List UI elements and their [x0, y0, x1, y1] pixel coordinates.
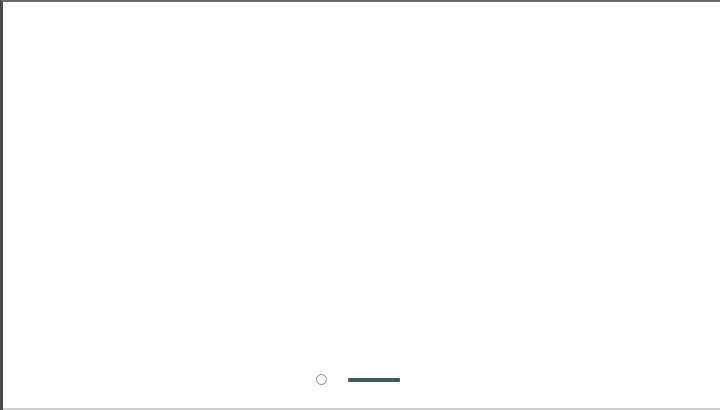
legend-item-model	[348, 378, 407, 382]
chart-legend	[3, 374, 720, 385]
line-swatch-icon	[348, 378, 400, 382]
forecast-chart-graphic	[3, 2, 720, 410]
open-circle-icon	[316, 374, 327, 385]
legend-item-actual	[316, 374, 334, 385]
chart-window-frame	[0, 0, 720, 410]
